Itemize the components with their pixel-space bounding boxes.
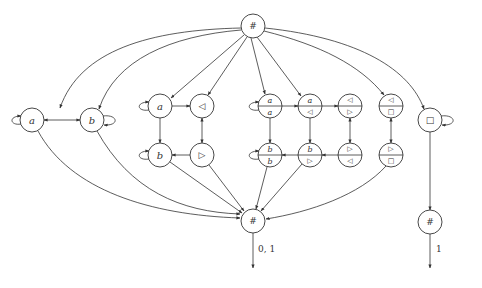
node-split-a-lt: a ◁ bbox=[298, 94, 322, 118]
node-split-rt-lt: ▷ ◁ bbox=[338, 143, 362, 167]
node-right-hash: # bbox=[418, 210, 442, 234]
svg-text:#: # bbox=[426, 217, 434, 227]
svg-text:a: a bbox=[268, 108, 273, 117]
node-split-rt-box: ▷ □ bbox=[379, 143, 403, 167]
node-g2-rt: ▷ bbox=[190, 143, 214, 167]
svg-text:#: # bbox=[249, 216, 257, 226]
node-split-lt-box: ◁ □ bbox=[379, 94, 403, 118]
svg-text:b: b bbox=[267, 145, 272, 154]
node-box: □ bbox=[418, 108, 442, 132]
svg-text:□: □ bbox=[388, 157, 395, 165]
edge-label-right-out: 1 bbox=[436, 244, 442, 254]
svg-text:▷: ▷ bbox=[347, 108, 353, 116]
svg-text:b: b bbox=[89, 115, 95, 126]
node-g2-lt: ◁ bbox=[190, 94, 214, 118]
svg-text:▷: ▷ bbox=[307, 157, 313, 165]
node-top-hash: # bbox=[241, 14, 265, 38]
edges-right bbox=[253, 116, 453, 268]
edges-left-group bbox=[12, 116, 240, 218]
svg-text:◁: ◁ bbox=[347, 157, 353, 165]
svg-text:b: b bbox=[157, 150, 163, 161]
node-split-bb: b b bbox=[258, 143, 282, 167]
svg-text:▷: ▷ bbox=[388, 145, 394, 153]
svg-text:▷: ▷ bbox=[199, 150, 206, 160]
automaton-diagram: 0, 1 1 # a b a ◁ b ▷ a a a ◁ bbox=[0, 0, 482, 288]
svg-text:a: a bbox=[268, 96, 273, 105]
svg-text:#: # bbox=[249, 21, 257, 31]
svg-text:a: a bbox=[157, 101, 163, 112]
svg-text:□: □ bbox=[426, 115, 435, 125]
node-bottom-hash: # bbox=[241, 209, 265, 233]
node-left-b: b bbox=[80, 108, 104, 132]
svg-text:a: a bbox=[308, 96, 313, 105]
edges-from-top bbox=[60, 28, 424, 109]
svg-text:b: b bbox=[267, 157, 272, 166]
node-g2-a: a bbox=[148, 94, 172, 118]
svg-text:◁: ◁ bbox=[347, 96, 353, 104]
svg-text:◁: ◁ bbox=[199, 101, 206, 111]
svg-text:□: □ bbox=[388, 108, 395, 116]
edge-label-bottom-out: 0, 1 bbox=[258, 244, 275, 254]
node-split-b-rt: b ▷ bbox=[298, 143, 322, 167]
svg-text:a: a bbox=[29, 115, 35, 126]
svg-text:◁: ◁ bbox=[388, 96, 394, 104]
node-split-aa: a a bbox=[258, 94, 282, 118]
svg-text:b: b bbox=[307, 145, 312, 154]
svg-text:▷: ▷ bbox=[347, 145, 353, 153]
node-split-lt-rt: ◁ ▷ bbox=[338, 94, 362, 118]
svg-text:◁: ◁ bbox=[307, 108, 313, 116]
node-g2-b: b bbox=[148, 143, 172, 167]
node-left-a: a bbox=[20, 108, 44, 132]
